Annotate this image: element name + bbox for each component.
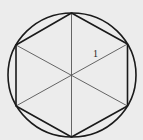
hexagon-in-circle-diagram: 1 <box>0 0 143 140</box>
radius-length-label: 1 <box>93 48 98 59</box>
diagonals <box>16 13 128 137</box>
diagram-canvas: 1 <box>0 0 143 140</box>
